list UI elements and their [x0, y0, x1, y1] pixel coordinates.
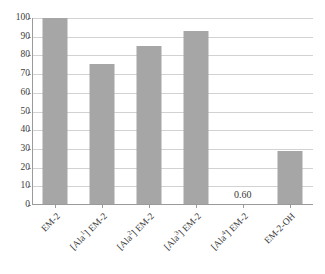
x-tick-slot: [Ala3] EM-2: [173, 205, 220, 274]
x-tick-mark: [243, 205, 244, 208]
y-tick-label: 50: [4, 107, 30, 117]
bars-layer: 0.60: [32, 18, 313, 205]
bar-slot: [126, 18, 173, 205]
bar[interactable]: [43, 18, 68, 205]
bar-slot: [173, 18, 220, 205]
y-tick-label: 10: [4, 182, 30, 192]
bar-slot: [32, 18, 79, 205]
x-tick-mark: [196, 205, 197, 208]
y-tick-label: 40: [4, 125, 30, 135]
y-axis: 0102030405060708090100: [0, 18, 30, 205]
bar-chart: 0102030405060708090100 0.60 EM-2[Ala1] E…: [0, 0, 325, 274]
bar[interactable]: [137, 46, 162, 205]
y-tick-label: 60: [4, 88, 30, 98]
plot-area: 0.60: [32, 18, 313, 205]
x-tick-mark: [290, 205, 291, 208]
x-tick-slot: EM-2-OH: [266, 205, 313, 274]
x-axis: EM-2[Ala1] EM-2[Ala2] EM-2[Ala3] EM-2[Al…: [32, 205, 313, 274]
x-tick-mark: [102, 205, 103, 208]
x-tick-mark: [55, 205, 56, 208]
y-tick-label: 90: [4, 32, 30, 42]
y-axis-line: [32, 18, 33, 205]
x-tick-label: EM-2: [40, 211, 63, 234]
y-tick-label: 30: [4, 144, 30, 154]
x-tick-slot: [Ala4] EM-2: [219, 205, 266, 274]
bar[interactable]: [277, 151, 302, 205]
y-tick-label: 80: [4, 51, 30, 61]
bar[interactable]: [90, 64, 115, 205]
bar-slot: 0.60: [219, 18, 266, 205]
bar-slot: [79, 18, 126, 205]
bar[interactable]: [183, 31, 208, 205]
bar-slot: [266, 18, 313, 205]
y-tick-label: 20: [4, 163, 30, 173]
y-tick-label: 0: [4, 200, 30, 210]
x-tick-slot: [Ala2] EM-2: [126, 205, 173, 274]
bar-value-label: 0.60: [234, 190, 252, 200]
x-tick-mark: [149, 205, 150, 208]
y-tick-label: 100: [4, 13, 30, 23]
y-tick-label: 70: [4, 69, 30, 79]
x-tick-label: EM-2-OH: [262, 211, 297, 246]
